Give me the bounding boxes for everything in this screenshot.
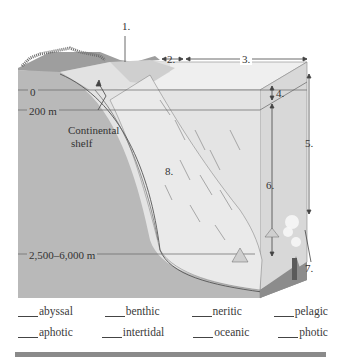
depth-label-0: 0 xyxy=(28,86,38,98)
answer-blank[interactable] xyxy=(274,307,294,317)
answer-blank[interactable] xyxy=(18,328,38,338)
label-7: 7. xyxy=(305,262,313,274)
label-3: 3. xyxy=(240,53,252,65)
terms-row-2: aphotic intertidal oceanic photic xyxy=(18,326,328,338)
term-abyssal[interactable]: abyssal xyxy=(18,305,73,317)
term-oceanic[interactable]: oceanic xyxy=(193,326,249,338)
bottom-divider-bar xyxy=(15,352,326,357)
answer-blank[interactable] xyxy=(193,328,213,338)
term-pelagic[interactable]: pelagic xyxy=(274,305,328,317)
depth-label-abyss: 2,500–6,000 m xyxy=(27,249,97,261)
term-photic[interactable]: photic xyxy=(278,326,328,338)
label-6: 6. xyxy=(266,179,274,191)
term-intertidal[interactable]: intertidal xyxy=(102,326,165,338)
term-aphotic[interactable]: aphotic xyxy=(18,326,73,338)
answer-blank[interactable] xyxy=(18,307,38,317)
label-1: 1. xyxy=(122,20,130,32)
label-4: 4. xyxy=(276,87,284,99)
continental-shelf-label-line2: shelf xyxy=(71,137,92,149)
continental-shelf-label-line1: Continental xyxy=(68,124,119,136)
term-benthic[interactable]: benthic xyxy=(105,305,160,317)
answer-blank[interactable] xyxy=(192,307,212,317)
term-neritic[interactable]: neritic xyxy=(192,305,242,317)
trench xyxy=(292,258,297,280)
depth-label-200m: 200 m xyxy=(27,105,59,117)
answer-blank[interactable] xyxy=(105,307,125,317)
terms-row-1: abyssal benthic neritic pelagic xyxy=(18,305,328,317)
label-2: 2. xyxy=(167,53,175,65)
ocean-zones-diagram: 1. 2. 3. 4. 5. 6. 7. 8. 0 200 m 2,500–6,… xyxy=(0,0,341,357)
label-8: 8. xyxy=(165,165,173,177)
answer-blank[interactable] xyxy=(102,328,122,338)
label-5: 5. xyxy=(305,137,313,149)
answer-blank[interactable] xyxy=(278,328,298,338)
